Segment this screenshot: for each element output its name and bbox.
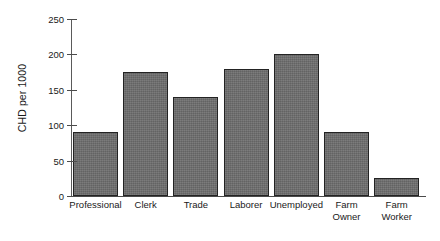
y-axis-tick-mark — [67, 125, 77, 126]
bar — [173, 97, 218, 196]
bar — [123, 72, 168, 196]
y-axis-tick-label: 200 — [30, 49, 64, 60]
bar — [73, 132, 118, 196]
y-axis-tick-mark — [67, 90, 77, 91]
y-axis-tick-mark — [67, 19, 77, 20]
y-axis-tick-mark — [67, 161, 77, 162]
bar — [374, 178, 419, 196]
x-axis-category-labels: ProfessionalClerkTradeLaborerUnemployedF… — [72, 199, 426, 241]
bar — [274, 54, 319, 196]
y-axis-tick-label: 50 — [30, 155, 64, 166]
y-axis-tick-mark — [67, 196, 77, 197]
y-axis-tick-mark — [67, 54, 77, 55]
y-axis-tick-label: 150 — [30, 84, 64, 95]
y-axis-tick-label: 250 — [30, 14, 64, 25]
bar — [324, 132, 369, 196]
y-axis-tick-label: 100 — [30, 120, 64, 131]
plot-area — [72, 19, 426, 196]
bar-chart: CHD per 1000 050100150200250 Professiona… — [0, 0, 440, 241]
x-axis-category-label: Farm Worker — [360, 199, 434, 222]
bar — [224, 69, 269, 196]
